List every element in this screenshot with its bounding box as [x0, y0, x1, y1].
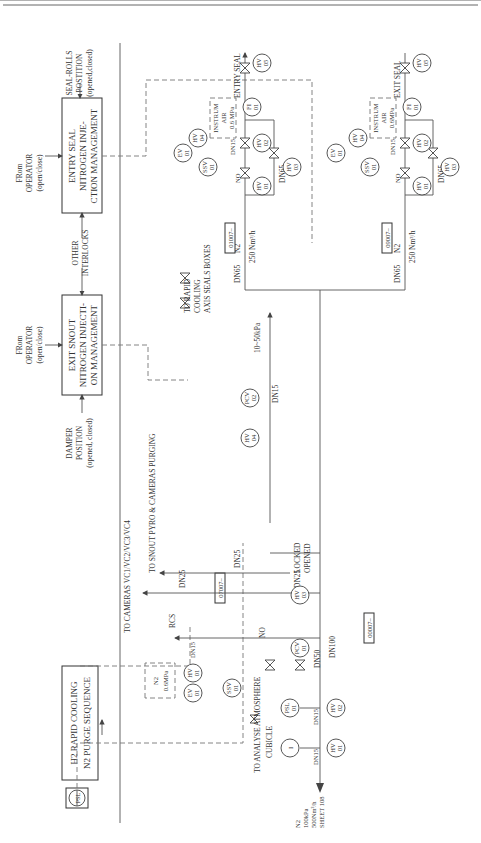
instrument-hv04-exit: HV04: [349, 129, 367, 147]
svg-text:0.6 MPa: 0.6 MPa: [228, 107, 235, 129]
svg-text:HV: HV: [329, 703, 336, 713]
svg-text:500Nm³/h: 500Nm³/h: [310, 801, 317, 828]
svg-text:01: 01: [336, 150, 343, 157]
n2-box: [145, 663, 175, 698]
svg-text:02: 02: [250, 395, 257, 402]
svg-text:SEAL-ROLLS: SEAL-ROLLS: [65, 51, 74, 96]
instrument-psl01: PSL01: [281, 699, 299, 717]
svg-text:OPENED: OPENED: [303, 543, 312, 573]
svg-text:05: 05: [422, 60, 429, 67]
n2-supply-label: N2 100kPa 500Nm³/h SHEET 108: [294, 797, 325, 828]
svg-text:SSV: SSV: [201, 161, 208, 173]
svg-text:DN15: DN15: [312, 749, 319, 765]
svg-text:10~50kPa: 10~50kPa: [253, 322, 262, 353]
svg-text:FI: FI: [405, 104, 412, 110]
instrument-hv03-entry: HV03: [283, 158, 301, 176]
svg-text:OPERATOR: OPERATOR: [25, 154, 34, 193]
svg-text:HV: HV: [415, 58, 422, 68]
svg-text:HV: HV: [443, 162, 450, 172]
svg-text:EXIT SNOUT: EXIT SNOUT: [67, 318, 77, 371]
svg-text:HV: HV: [186, 668, 193, 678]
svg-text:01: 01: [336, 745, 343, 752]
svg-text:HV: HV: [293, 590, 300, 600]
instrument-hv01-n2: HV01: [184, 664, 202, 682]
svg-text:HV: HV: [255, 138, 262, 148]
svg-text:SSV: SSV: [363, 161, 370, 173]
svg-text:PSL: PSL: [283, 702, 290, 713]
svg-text:HV: HV: [285, 162, 292, 172]
svg-text:HV: HV: [255, 58, 262, 68]
instrument-hv05-exit: HV05: [413, 54, 431, 72]
instrument-fi01-exit: FI01: [403, 98, 421, 116]
svg-text:HV: HV: [351, 133, 358, 143]
svg-text:COOLING: COOLING: [193, 279, 202, 313]
svg-text:HV: HV: [415, 138, 422, 148]
svg-text:EXIT SEAL: EXIT SEAL: [393, 60, 402, 98]
instrument-hv02-main: HV02: [327, 699, 345, 717]
svg-text:SSV: SSV: [225, 682, 232, 694]
instrument-ev01-entry: EV01: [174, 144, 192, 162]
svg-text:04: 04: [250, 434, 257, 441]
svg-text:TO ANALYSE ATMOSPHERE: TO ANALYSE ATMOSPHERE: [253, 676, 262, 773]
instrument-ev01-n2: EV01: [184, 684, 202, 702]
other-interlocks: OTHER INTERLOCKS: [71, 213, 90, 295]
svg-text:DN100: DN100: [328, 636, 337, 658]
tag-07007: 07007–: [215, 573, 225, 603]
svg-text:01: 01: [422, 183, 429, 190]
svg-text:NITROGEN INJECTI-: NITROGEN INJECTI-: [78, 303, 88, 387]
svg-text:01: 01: [290, 705, 297, 712]
svg-text:N2: N2: [393, 244, 402, 253]
svg-text:PCV: PCV: [243, 391, 250, 404]
svg-text:(open/close): (open/close): [35, 154, 44, 192]
seal-rolls-signal: SEAL-ROLLS POSTITION (opened,closed): [65, 49, 94, 98]
svg-text:N2 PURGE SEQUENCE: N2 PURGE SEQUENCE: [82, 677, 92, 770]
svg-text:INSTRUM: INSTRUM: [372, 103, 379, 132]
instrument-hv02-entry: HV02: [253, 134, 271, 152]
instrument-ssv01-entry: SSV01: [199, 158, 217, 176]
svg-text:FRom: FRom: [15, 335, 24, 354]
svg-text:DN50: DN50: [313, 649, 322, 668]
instrument-hv03-exit: HV03: [441, 158, 459, 176]
svg-text:AIR: AIR: [380, 112, 387, 124]
svg-text:01: 01: [208, 164, 215, 171]
svg-text:HV: HV: [255, 181, 262, 191]
svg-text:01: 01: [252, 104, 259, 111]
svg-text:NITROGEN INJE-: NITROGEN INJE-: [78, 121, 88, 191]
svg-text:DN15: DN15: [271, 384, 280, 403]
svg-text:01: 01: [262, 183, 269, 190]
svg-text:HV: HV: [329, 743, 336, 753]
from-operator-2: FRom OPERATOR (open/close): [15, 326, 62, 365]
svg-text:(open/close): (open/close): [35, 326, 44, 364]
tag-01007: 01007–: [225, 223, 235, 253]
svg-text:I: I: [287, 747, 294, 749]
svg-text:DN25: DN25: [178, 569, 187, 588]
svg-text:01007–: 01007–: [227, 228, 234, 248]
svg-text:01: 01: [232, 685, 239, 692]
svg-text:POSITION: POSITION: [75, 425, 84, 460]
svg-text:TO RAPID: TO RAPID: [183, 278, 192, 313]
svg-text:AXIS SEALS BOXES: AXIS SEALS BOXES: [203, 244, 212, 313]
svg-text:HV: HV: [191, 133, 198, 143]
svg-text:NO: NO: [394, 173, 401, 183]
svg-text:FRom: FRom: [15, 163, 24, 182]
svg-text:07007–: 07007–: [217, 578, 224, 598]
svg-text:09007–: 09007–: [384, 228, 391, 248]
svg-text:02: 02: [336, 705, 343, 712]
svg-text:CTION MANAGEMENT: CTION MANAGEMENT: [89, 108, 99, 203]
svg-text:EV: EV: [329, 148, 336, 157]
svg-text:INSTRUM: INSTRUM: [212, 103, 219, 132]
instrument-hv02-exit: HV02: [413, 134, 431, 152]
svg-text:DN15: DN15: [229, 139, 236, 155]
svg-text:PSL: PSL: [74, 792, 81, 803]
svg-text:RCS: RCS: [168, 614, 177, 628]
svg-text:HV: HV: [243, 433, 250, 443]
svg-text:(opened,closed): (opened,closed): [85, 49, 94, 97]
pid-diagram: ENTRY SEAL NITROGEN INJE- CTION MANAGEME…: [0, 0, 481, 843]
svg-text:DN65: DN65: [393, 264, 402, 283]
svg-text:EV: EV: [176, 148, 183, 157]
svg-text:N2: N2: [152, 677, 159, 685]
svg-text:ENTRY SEAL: ENTRY SEAL: [67, 129, 77, 183]
svg-text:OPERATOR: OPERATOR: [25, 326, 34, 365]
svg-text:TO CAMERAS VC1/VC2/VC3/VC4: TO CAMERAS VC1/VC2/VC3/VC4: [123, 520, 132, 633]
svg-text:(opened, closed): (opened, closed): [85, 418, 94, 468]
